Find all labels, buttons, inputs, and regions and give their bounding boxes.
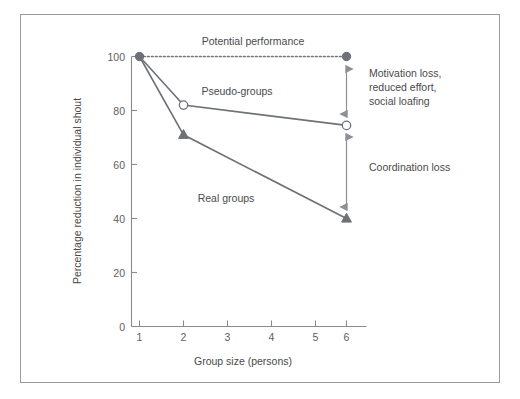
- real-groups-label: Real groups: [198, 192, 255, 204]
- y-tick-label-40: 40: [113, 213, 125, 225]
- marker-pseudo-n6: [342, 121, 350, 129]
- x-tick-label-3: 3: [225, 331, 231, 343]
- clipped-header-fragment: [150, 0, 370, 4]
- marker-real-n2: [179, 130, 189, 139]
- y-axis: 100 80 60 40 20 0: [107, 51, 137, 333]
- potential-performance-label: Potential performance: [202, 35, 305, 47]
- x-tick-label-4: 4: [269, 331, 275, 343]
- y-axis-title: Percentage reduction in individual shout: [71, 98, 83, 284]
- coordination-loss-annotation: Coordination loss: [369, 161, 450, 173]
- motivation-loss-line-2: reduced effort,: [369, 81, 437, 93]
- x-tick-label-2: 2: [181, 331, 187, 343]
- x-tick-label-5: 5: [313, 331, 319, 343]
- x-axis-title: Group size (persons): [194, 355, 292, 367]
- x-tick-label-6: 6: [344, 331, 350, 343]
- y-tick-label-100: 100: [107, 51, 125, 63]
- series-potential-performance: [135, 52, 350, 60]
- motivation-loss-line-3: social loafing: [369, 95, 430, 107]
- marker-potential-n6: [342, 52, 350, 60]
- y-tick-label-0: 0: [119, 321, 125, 333]
- motivation-loss-line-1: Motivation loss,: [369, 67, 441, 79]
- figure-frame: 100 80 60 40 20 0 1 2 3 4 5 6 Group size…: [20, 14, 500, 383]
- x-axis: 1 2 3 4 5 6: [132, 321, 367, 344]
- y-tick-label-60: 60: [113, 159, 125, 171]
- marker-real-n6: [342, 213, 352, 222]
- y-tick-label-20: 20: [113, 267, 125, 279]
- line-chart: 100 80 60 40 20 0 1 2 3 4 5 6 Group size…: [21, 15, 499, 382]
- pseudo-groups-label: Pseudo-groups: [201, 85, 272, 97]
- marker-pseudo-n2: [179, 101, 187, 109]
- motivation-loss-annotation: Motivation loss, reduced effort, social …: [369, 67, 441, 107]
- x-tick-label-1: 1: [137, 331, 143, 343]
- y-tick-label-80: 80: [113, 105, 125, 117]
